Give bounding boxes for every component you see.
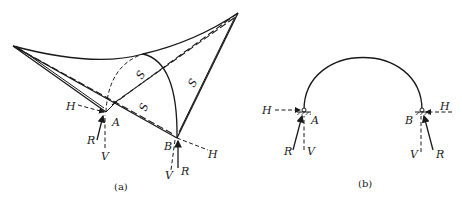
label-R-right-b: R	[435, 148, 444, 161]
label-B-a: B	[163, 140, 172, 153]
label-A-a: A	[111, 116, 120, 129]
edge-right-to-B	[177, 13, 238, 138]
force-H-right-line	[177, 138, 208, 150]
figure-b-support-A	[275, 108, 311, 150]
label-R-right-a: R	[180, 165, 189, 178]
caption-b: (b)	[358, 178, 372, 189]
label-H-right-a: H	[207, 148, 218, 161]
force-R-right-b	[424, 116, 433, 150]
label-H-right-b: H	[439, 100, 450, 113]
pin-A-icon	[302, 108, 306, 112]
label-S-2: S	[137, 101, 152, 113]
figure-a-saddle-shell	[13, 13, 238, 138]
figure-b-arch	[304, 58, 422, 111]
pin-B-icon	[420, 108, 424, 112]
label-H-left-b: H	[261, 104, 272, 117]
figure-a-support-B-forces	[171, 138, 208, 170]
label-H-left-a: H	[65, 100, 76, 113]
force-R-left-b	[293, 116, 302, 150]
arch-solid-part	[143, 54, 177, 138]
label-S-3: S	[185, 76, 200, 89]
label-A-b: A	[310, 114, 319, 127]
label-R-left-a: R	[86, 134, 95, 147]
label-V-right-b: V	[410, 148, 419, 161]
figure-b-support-B	[415, 108, 452, 152]
label-R-left-b: R	[283, 145, 292, 158]
label-B-b: B	[404, 114, 413, 127]
label-V-left-a: V	[101, 150, 110, 163]
diagram-canvas: S S S H A R V B H V R (a) H A R V	[0, 0, 462, 205]
label-V-left-b: V	[307, 145, 316, 158]
force-R-left-arrow	[97, 116, 103, 140]
saddle-top-edge	[13, 13, 238, 59]
label-V-right-a: V	[165, 169, 174, 182]
arch-dashed-part	[106, 54, 143, 112]
caption-a: (a)	[114, 181, 128, 192]
